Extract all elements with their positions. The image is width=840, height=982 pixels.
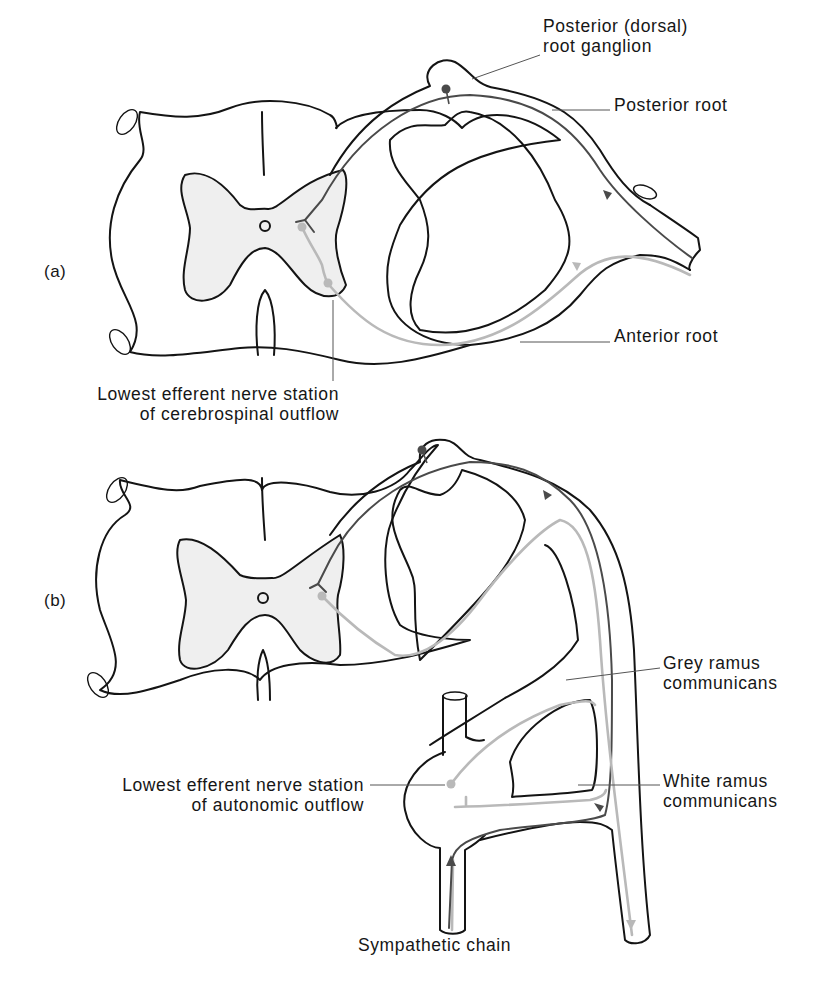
grey-ramus-fiber bbox=[451, 701, 595, 784]
panel-tag-a: (a) bbox=[44, 262, 66, 282]
leader-ganglion bbox=[472, 55, 540, 79]
label-station-a-line1: Lowest efferent nerve station bbox=[48, 384, 339, 404]
afferent-arrow-a bbox=[603, 190, 612, 200]
label-station-b-line2: of autonomic outflow bbox=[60, 795, 364, 815]
root-stub-bottom-left-a bbox=[105, 326, 134, 358]
nerve-inner-a bbox=[390, 112, 570, 333]
afferent-fiber-a bbox=[305, 95, 692, 258]
label-ganglion-line2: root ganglion bbox=[543, 36, 688, 56]
efferent-arrow-a bbox=[572, 262, 581, 271]
afferent-arrow-b-mid bbox=[594, 803, 604, 812]
nerve-inner-white-b bbox=[510, 700, 597, 797]
label-station-b-line1: Lowest efferent nerve station bbox=[60, 775, 364, 795]
chain-stub-top bbox=[443, 696, 484, 755]
label-anterior-root: Anterior root bbox=[614, 326, 718, 346]
grey-matter-a bbox=[181, 170, 346, 301]
root-stub-top-left-a bbox=[112, 106, 141, 138]
nerve-outer-a bbox=[330, 60, 650, 205]
label-sympathetic-chain: Sympathetic chain bbox=[358, 935, 511, 955]
white-ramus-fiber bbox=[455, 790, 606, 807]
label-white-ramus-line1: White ramus bbox=[663, 771, 778, 791]
label-ganglion-line1: Posterior (dorsal) bbox=[543, 16, 688, 36]
panel-tag-b: (b) bbox=[44, 591, 66, 611]
afferent-arrow-b-low bbox=[446, 855, 456, 866]
label-grey-ramus-line2: communicans bbox=[663, 673, 778, 693]
chain-stub-top-cap bbox=[443, 692, 467, 700]
panel-a-drawing bbox=[105, 55, 700, 381]
nerve-outer-b bbox=[330, 440, 650, 944]
anterior-fissure-a bbox=[256, 290, 274, 355]
spinal-cord-b-outline bbox=[96, 445, 470, 694]
label-ganglion: Posterior (dorsal) root ganglion bbox=[543, 16, 688, 56]
posterior-fissure-a bbox=[262, 112, 264, 175]
interneuron-cell-a bbox=[298, 223, 307, 232]
label-station-a: Lowest efferent nerve station of cerebro… bbox=[48, 384, 339, 424]
postganglionic-cell-b bbox=[447, 780, 456, 789]
spinal-nerve-diagram bbox=[0, 0, 840, 982]
label-grey-ramus: Grey ramus communicans bbox=[663, 653, 778, 693]
trunk-stub-a bbox=[632, 182, 659, 201]
label-grey-ramus-line1: Grey ramus bbox=[663, 653, 778, 673]
label-station-a-line2: of cerebrospinal outflow bbox=[48, 404, 339, 424]
panel-b-drawing bbox=[83, 440, 660, 944]
leader-grey-ramus bbox=[566, 668, 660, 680]
afferent-arrow-b-top bbox=[543, 490, 552, 500]
efferent-arrow-b-down bbox=[626, 920, 636, 930]
label-white-ramus-line2: communicans bbox=[663, 791, 778, 811]
motor-neuron-cell-a bbox=[324, 279, 333, 288]
efferent-fiber-b bbox=[322, 520, 632, 935]
root-stub-top-left-b bbox=[102, 474, 131, 506]
preganglionic-cell-b bbox=[318, 592, 327, 601]
label-posterior-root: Posterior root bbox=[614, 95, 727, 115]
root-stub-bottom-left-b bbox=[83, 669, 112, 701]
label-white-ramus: White ramus communicans bbox=[663, 771, 778, 811]
sympathetic-ganglion bbox=[404, 752, 485, 934]
nerve-trunk-a bbox=[650, 205, 700, 270]
label-station-b: Lowest efferent nerve station of autonom… bbox=[60, 775, 364, 815]
